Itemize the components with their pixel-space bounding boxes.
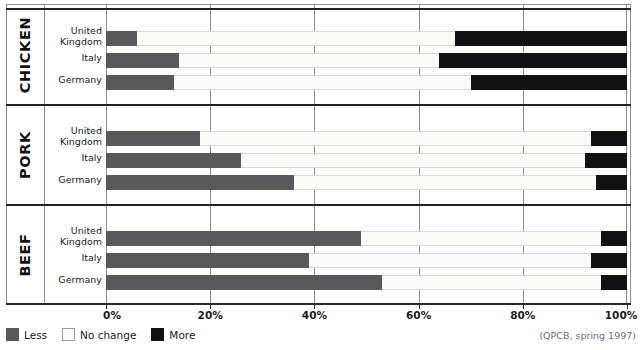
group-label-beef: BEEF (6, 205, 45, 305)
group-panel-chicken: CHICKENUnitedKingdomItalyGermany (6, 5, 631, 105)
category-label-line2: Kingdom (60, 36, 102, 47)
group-label-chicken: CHICKEN (6, 5, 45, 105)
legend-item-less: Less (6, 328, 47, 341)
legend-swatch-more-icon (151, 328, 164, 341)
legend-swatch-less-icon (6, 328, 19, 341)
bar-pork-italy (106, 153, 627, 168)
x-tick-label-60: 60% (406, 309, 431, 321)
legend-label-no-change: No change (80, 329, 136, 341)
bar-segment-more (591, 253, 627, 268)
bar-segment-more (455, 31, 627, 46)
bar-pork-united (106, 131, 627, 146)
bar-segment-nochange (174, 75, 471, 90)
legend-label-less: Less (24, 329, 47, 341)
x-tick-label-40: 40% (302, 309, 327, 321)
category-label: Germany (41, 275, 102, 286)
legend-item-more: More (151, 328, 195, 341)
category-label-line1: Italy (81, 52, 102, 63)
source-note: (QPCB, spring 1997) (539, 330, 636, 341)
legend-label-more: More (169, 329, 195, 341)
bar-segment-more (471, 75, 627, 90)
x-tick-label-0: 0% (103, 309, 121, 321)
category-labels: UnitedKingdomItalyGermany (45, 205, 106, 305)
category-label-line1: United (71, 225, 102, 236)
bar-segment-less (106, 275, 382, 290)
group-panel-beef: BEEFUnitedKingdomItalyGermany (6, 205, 631, 305)
bar-segment-nochange (200, 131, 591, 146)
bar-segment-less (106, 31, 137, 46)
category-label-line2: Kingdom (60, 236, 102, 247)
bar-segment-nochange (241, 153, 585, 168)
bar-segment-more (439, 53, 627, 68)
group-separator (6, 204, 631, 206)
legend-item-no-change: No change (62, 328, 136, 341)
category-label-line1: United (71, 25, 102, 36)
category-label-line1: United (71, 125, 102, 136)
category-label: Italy (41, 253, 102, 264)
category-labels: UnitedKingdomItalyGermany (45, 5, 106, 105)
group-label-pork: PORK (6, 105, 45, 205)
x-tick-label-80: 80% (510, 309, 535, 321)
x-tick-label-20: 20% (198, 309, 223, 321)
category-label-line1: Italy (81, 152, 102, 163)
bar-segment-less (106, 253, 309, 268)
category-label-line1: Germany (58, 274, 102, 285)
bar-chicken-united (106, 31, 627, 46)
category-label: Germany (41, 75, 102, 86)
chart-legend: Less No change More (6, 328, 195, 341)
bar-segment-more (601, 275, 627, 290)
x-tick-label-100: 100% (605, 309, 637, 321)
x-axis-line (6, 303, 631, 305)
bar-segment-nochange (361, 231, 601, 246)
bar-segment-more (591, 131, 627, 146)
chart-container: CHICKENUnitedKingdomItalyGermanyPORKUnit… (0, 0, 644, 350)
bar-chicken-italy (106, 53, 627, 68)
bar-segment-nochange (294, 175, 596, 190)
category-label-line1: Italy (81, 252, 102, 263)
category-label: Italy (41, 53, 102, 64)
bar-segment-nochange (382, 275, 601, 290)
group-label-text: CHICKEN (17, 17, 33, 93)
group-label-text: PORK (17, 131, 33, 179)
category-labels: UnitedKingdomItalyGermany (45, 105, 106, 205)
group-label-text: BEEF (17, 233, 33, 276)
bar-segment-less (106, 153, 241, 168)
bar-pork-germany (106, 175, 627, 190)
category-label-line2: Kingdom (60, 136, 102, 147)
chart-top-rule (6, 8, 631, 10)
bar-segment-more (601, 231, 627, 246)
group-panel-pork: PORKUnitedKingdomItalyGermany (6, 105, 631, 205)
group-separator (6, 104, 631, 106)
bar-chicken-germany (106, 75, 627, 90)
category-label: UnitedKingdom (41, 226, 102, 247)
bar-segment-nochange (137, 31, 455, 46)
category-label: UnitedKingdom (41, 126, 102, 147)
category-label: Italy (41, 153, 102, 164)
bar-segment-more (596, 175, 627, 190)
bar-segment-more (585, 153, 627, 168)
bar-segment-less (106, 53, 179, 68)
category-label: Germany (41, 175, 102, 186)
category-label-line1: Germany (58, 74, 102, 85)
bar-segment-less (106, 231, 361, 246)
category-label: UnitedKingdom (41, 26, 102, 47)
bar-beef-united (106, 231, 627, 246)
bar-segment-nochange (179, 53, 440, 68)
bar-segment-less (106, 75, 174, 90)
category-label-line1: Germany (58, 174, 102, 185)
bar-beef-germany (106, 275, 627, 290)
bar-segment-less (106, 175, 294, 190)
legend-swatch-no-change-icon (62, 328, 75, 341)
bar-segment-nochange (309, 253, 590, 268)
bar-beef-italy (106, 253, 627, 268)
bar-segment-less (106, 131, 200, 146)
